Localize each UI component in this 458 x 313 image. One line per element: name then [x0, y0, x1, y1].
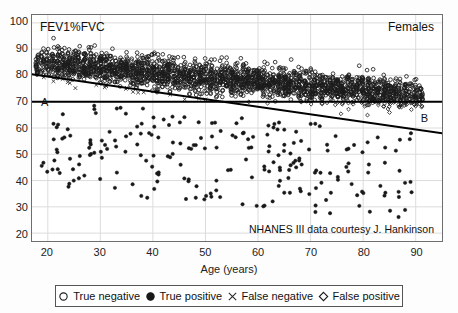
- legend-label: False negative: [242, 290, 314, 302]
- x-axis-title: Age (years): [0, 263, 458, 275]
- legend-label: False positive: [333, 290, 400, 302]
- legend-label: True positive: [160, 290, 223, 302]
- x-tick-60: 60: [238, 247, 278, 258]
- legend-item-cross: False negative: [227, 290, 314, 302]
- x-tick-90: 90: [397, 247, 437, 258]
- open-circle-icon: [58, 291, 69, 302]
- legend: True negativeTrue positiveFalse negative…: [55, 285, 403, 307]
- legend-item-open-circle: True negative: [58, 290, 140, 302]
- legend-label: True negative: [73, 290, 140, 302]
- x-tick-70: 70: [291, 247, 331, 258]
- cross-icon: [227, 291, 238, 302]
- open-diamond-icon: [318, 291, 329, 302]
- filled-circle-icon: [145, 291, 156, 302]
- legend-item-filled-circle: True positive: [145, 290, 223, 302]
- figure-root: FEV1%FVC Females A B NHANES III data cou…: [0, 0, 458, 313]
- x-tick-40: 40: [132, 247, 172, 258]
- x-tick-50: 50: [185, 247, 225, 258]
- x-tick-80: 80: [344, 247, 384, 258]
- x-tick-30: 30: [80, 247, 120, 258]
- x-tick-20: 20: [27, 247, 67, 258]
- legend-item-open-diamond: False positive: [318, 290, 400, 302]
